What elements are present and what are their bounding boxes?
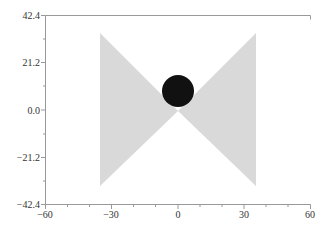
y-tick-label: 21.2 [23, 57, 41, 68]
x-tick-label: −60 [37, 209, 53, 220]
y-tick-label: −21.2 [17, 152, 40, 163]
x-tick-label: 30 [239, 209, 249, 220]
x-axis-labels: −60 −30 0 30 60 [37, 209, 315, 220]
y-tick-label: 42.4 [23, 10, 41, 21]
y-axis-labels: 42.4 21.2 0.0 −21.2 −42.4 [17, 10, 40, 210]
x-tick-label: −30 [103, 209, 119, 220]
x-tick-label: 0 [176, 209, 181, 220]
y-tick-label: 0.0 [28, 105, 41, 116]
x-tick-label: 60 [305, 209, 315, 220]
chart: 42.4 21.2 0.0 −21.2 −42.4 −60 −30 0 30 6… [0, 0, 330, 229]
axes-frame [46, 16, 311, 205]
bowtie-shape [100, 33, 256, 186]
y-axis-ticks [41, 16, 46, 205]
disc-shape [162, 75, 194, 107]
